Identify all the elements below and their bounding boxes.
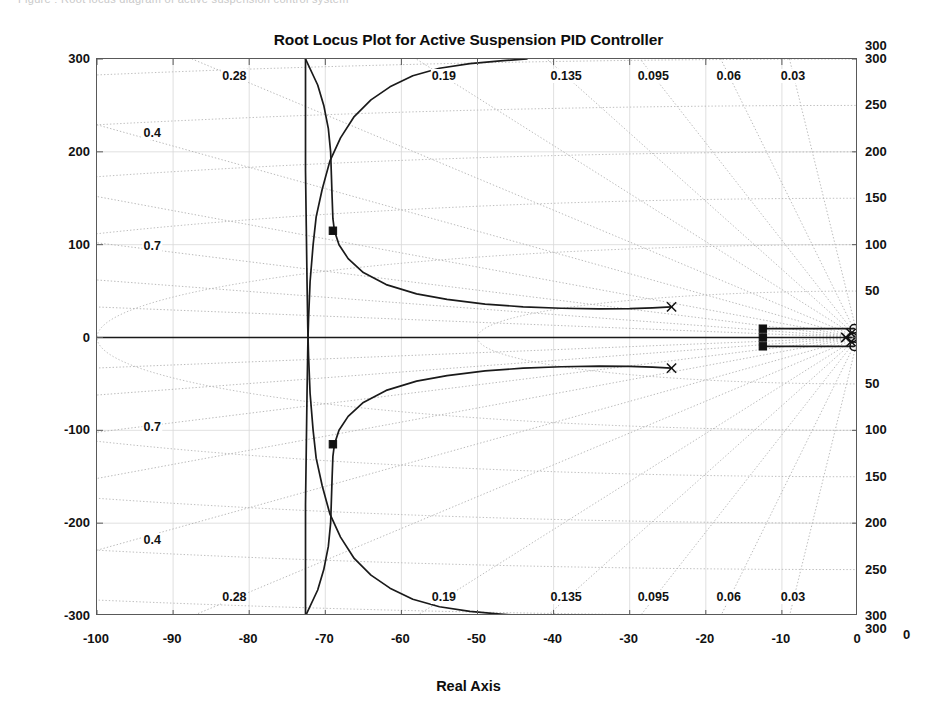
damping-ratio-label: 0.7 — [143, 239, 162, 253]
plot-area — [97, 59, 856, 614]
damping-ratio-label: 0.03 — [780, 590, 806, 604]
x-tick-label: -80 — [239, 631, 258, 646]
x-tick-label: -30 — [619, 631, 638, 646]
chart-title: Root Locus Plot for Active Suspension PI… — [0, 31, 937, 49]
x-tick-label: -70 — [315, 631, 334, 646]
closed-loop-marker — [759, 334, 766, 341]
x-tick-label: -100 — [83, 631, 109, 646]
natural-frequency-label: 50 — [865, 283, 879, 298]
y-tick-label: 200 — [44, 143, 90, 158]
origin-corner-label: 0 — [903, 627, 910, 642]
damping-ratio-label: 0.4 — [143, 126, 162, 140]
closed-loop-marker — [329, 441, 336, 448]
top-right-frequency-label: 300 — [865, 38, 887, 53]
damping-ratio-label: 0.28 — [221, 69, 247, 83]
natural-frequency-label: 200 — [865, 143, 887, 158]
x-tick-label: 0 — [853, 631, 860, 646]
root-locus-figure: Figure : Root locus diagram of active su… — [0, 0, 937, 718]
damping-ratio-label: 0.06 — [716, 590, 742, 604]
damping-ratio-label: 0.095 — [637, 590, 670, 604]
damping-ratio-label: 0.19 — [431, 69, 457, 83]
closed-loop-marker — [759, 325, 766, 332]
x-tick-label: -60 — [391, 631, 410, 646]
natural-frequency-grid — [97, 59, 856, 614]
x-axis-label: Real Axis — [0, 678, 937, 694]
damping-ratio-label: 0.28 — [221, 590, 247, 604]
natural-frequency-label: 150 — [865, 468, 887, 483]
plot-frame — [96, 58, 857, 615]
x-tick-label: -90 — [163, 631, 182, 646]
natural-frequency-label: 50 — [865, 375, 879, 390]
damping-ratio-label: 0.19 — [431, 590, 457, 604]
y-tick-label: 100 — [44, 236, 90, 251]
figure-caption-strip: Figure : Root locus diagram of active su… — [0, 0, 937, 14]
root-locus-canvas — [97, 59, 856, 614]
damping-ratio-label: 0.06 — [716, 69, 742, 83]
closed-loop-marker — [329, 227, 336, 234]
axis-tick-marks — [97, 59, 856, 614]
upper-main-branch — [306, 59, 527, 614]
natural-frequency-label: 250 — [865, 561, 887, 576]
figure-caption-text: Figure : Root locus diagram of active su… — [18, 0, 937, 5]
natural-frequency-label: 100 — [865, 422, 887, 437]
damping-ratio-label: 0.135 — [550, 69, 583, 83]
x-tick-label: -50 — [467, 631, 486, 646]
closed-loop-marker — [759, 343, 766, 350]
grid-lines — [97, 59, 856, 614]
x-tick-label: -10 — [771, 631, 790, 646]
y-tick-label: 0 — [44, 329, 90, 344]
damping-ratio-label: 0.4 — [143, 533, 162, 547]
x-tick-label: -20 — [695, 631, 714, 646]
x-tick-label: -40 — [543, 631, 562, 646]
damping-ratio-label: 0.135 — [550, 590, 583, 604]
natural-frequency-label: 250 — [865, 97, 887, 112]
locus-branches — [97, 59, 854, 614]
y-tick-label: -200 — [44, 515, 90, 530]
y-tick-label: -300 — [44, 608, 90, 623]
bottom-right-frequency-label: 300 — [865, 621, 887, 636]
natural-frequency-label: 200 — [865, 515, 887, 530]
damping-ratio-grid — [97, 59, 856, 614]
damping-ratio-label: 0.03 — [780, 69, 806, 83]
damping-ratio-label: 0.095 — [637, 69, 670, 83]
damping-ratio-label: 0.7 — [143, 420, 162, 434]
y-tick-label: 300 — [44, 51, 90, 66]
upper-return-branch — [306, 59, 672, 309]
natural-frequency-label: 100 — [865, 236, 887, 251]
lower-return-branch — [306, 366, 672, 614]
natural-frequency-label: 150 — [865, 190, 887, 205]
y-tick-label: -100 — [44, 422, 90, 437]
